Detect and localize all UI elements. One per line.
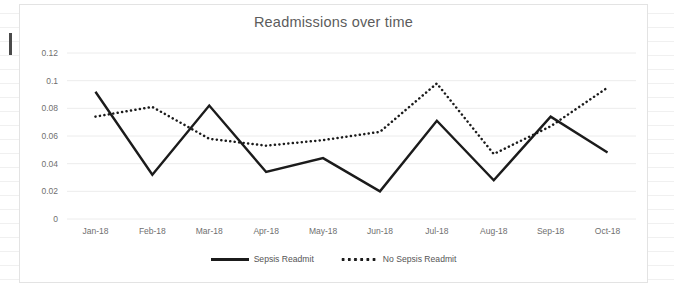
legend-entry-no-sepsis-readmit[interactable]: No Sepsis Readmit	[340, 254, 457, 264]
y-tick-label: 0.1	[46, 76, 58, 86]
legend-label: No Sepsis Readmit	[383, 254, 457, 264]
legend-entry-sepsis-readmit[interactable]: Sepsis Readmit	[211, 254, 314, 264]
x-tick-label: Apr-18	[253, 226, 279, 236]
series-line-sepsis-readmit	[95, 92, 607, 192]
x-axis-tick-labels: Jan-18Feb-18Mar-18Apr-18May-18Jun-18Jul-…	[82, 226, 620, 236]
line-chart-svg: 00.020.040.060.080.10.12 Jan-18Feb-18Mar…	[20, 5, 649, 284]
x-tick-label: May-18	[309, 226, 338, 236]
x-tick-label: Mar-18	[196, 226, 223, 236]
y-axis-tick-labels: 00.020.040.060.080.10.12	[41, 48, 58, 224]
y-tick-label: 0.06	[41, 131, 58, 141]
x-tick-label: Jan-18	[82, 226, 108, 236]
x-tick-label: Feb-18	[139, 226, 166, 236]
chart-legend: Sepsis Readmit No Sepsis Readmit	[20, 254, 647, 264]
y-tick-label: 0.04	[41, 159, 58, 169]
dotted-line-swatch-icon	[340, 258, 378, 261]
x-tick-label: Oct-18	[595, 226, 621, 236]
series-line-no-sepsis-readmit	[95, 83, 607, 154]
data-series-layer	[95, 83, 607, 191]
legend-label: Sepsis Readmit	[254, 254, 314, 264]
y-tick-label: 0.08	[41, 103, 58, 113]
x-tick-label: Jun-18	[367, 226, 393, 236]
plot-area: 00.020.040.060.080.10.12 Jan-18Feb-18Mar…	[20, 5, 649, 284]
y-tick-label: 0	[53, 214, 58, 224]
x-tick-label: Sep-18	[537, 226, 565, 236]
row-selection-marker	[9, 33, 12, 55]
y-tick-label: 0.02	[41, 186, 58, 196]
solid-line-swatch-icon	[211, 258, 249, 261]
x-tick-label: Aug-18	[480, 226, 508, 236]
y-tick-label: 0.12	[41, 48, 58, 58]
x-tick-label: Jul-18	[425, 226, 448, 236]
chart-object[interactable]: Readmissions over time 00.020.040.060.08…	[19, 4, 648, 283]
